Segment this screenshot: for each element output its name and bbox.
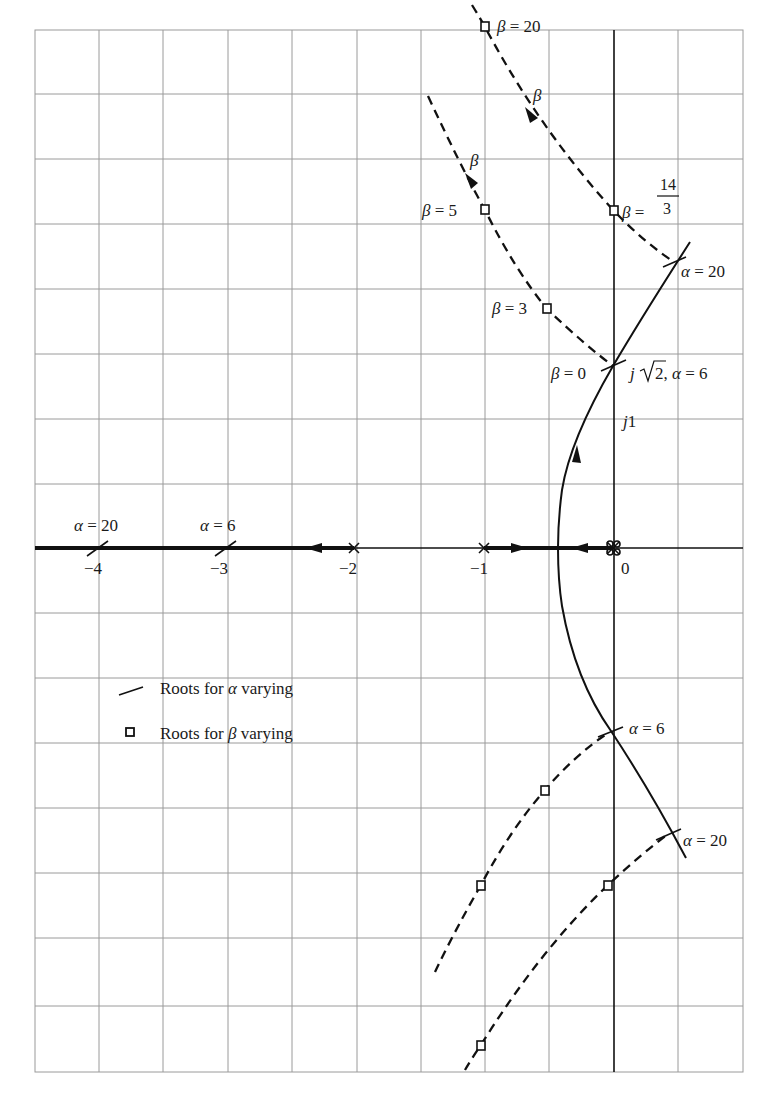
label-beta-20: β = 20 — [496, 17, 541, 36]
label-beta-14-3: β = — [621, 203, 644, 222]
tick-label-minus-2: −2 — [339, 559, 357, 578]
legend-item-beta: Roots for β varying — [126, 724, 293, 743]
svg-text:Roots for β varying: Roots for β varying — [160, 724, 293, 743]
tick-label-minus-1: −1 — [470, 559, 488, 578]
beta-locus-lower-inner — [435, 733, 608, 972]
label-beta-3: β = 3 — [491, 299, 527, 318]
label-beta-arrow: β — [469, 151, 479, 170]
square-marker-icon — [481, 22, 489, 31]
label-beta-5: β = 5 — [421, 201, 457, 220]
label-beta-arrow: β — [532, 86, 542, 105]
beta-locus-upper-inner — [428, 96, 613, 366]
arrow-right-icon — [511, 543, 528, 553]
axes — [35, 30, 743, 1072]
svg-text:Roots for α varying: Roots for α varying — [160, 679, 294, 698]
square-marker-icon — [481, 205, 489, 214]
arrow-left-icon — [305, 543, 322, 553]
square-marker-icon — [477, 1041, 485, 1050]
beta-locus-lower-outer — [465, 834, 668, 1070]
label-beta-14-3-num: 14 — [660, 176, 676, 193]
root-locus-diagram: β = 20 β β β = 5 β = 14 3 α = 20 β = 3 β… — [0, 0, 773, 1103]
arrow-left-icon — [571, 543, 588, 553]
label-beta-14-3-den: 3 — [663, 200, 671, 217]
label-j-root2-alpha-6: j — [628, 364, 635, 383]
beta-arrows — [465, 107, 538, 189]
label-alpha-6-axis: α = 6 — [200, 516, 236, 535]
arrow-up-left-icon — [465, 173, 478, 189]
label-alpha-20-axis: α = 20 — [74, 516, 118, 535]
alpha-branch-lower — [558, 548, 686, 858]
legend-item-alpha: Roots for α varying — [119, 679, 294, 698]
beta-loci — [428, 5, 674, 1070]
label-j1: j1 — [621, 412, 636, 431]
label-beta-0: β = 0 — [550, 364, 586, 383]
alpha-branch-upper — [558, 242, 690, 548]
label-alpha-6-lower: α = 6 — [629, 719, 665, 738]
legend: Roots for α varying Roots for β varying — [119, 679, 294, 743]
svg-text:2, α = 6: 2, α = 6 — [655, 364, 708, 383]
tick-label-minus-3: −3 — [210, 559, 228, 578]
square-marker-icon — [604, 881, 612, 890]
square-marker-icon — [610, 206, 618, 215]
square-marker-icon — [543, 304, 551, 313]
tick-line-icon — [119, 687, 143, 695]
label-alpha-20-lower: α = 20 — [683, 831, 727, 850]
square-marker-icon — [126, 728, 134, 736]
tick-label-minus-4: −4 — [84, 559, 103, 578]
beta-locus-upper-outer — [472, 5, 674, 262]
grid — [35, 30, 743, 1072]
label-alpha-20-upper: α = 20 — [681, 262, 725, 281]
square-marker-icon — [477, 881, 485, 890]
tick-label-0: 0 — [621, 559, 630, 578]
square-marker-icon — [541, 786, 549, 795]
arrow-up-left-icon — [525, 107, 538, 123]
